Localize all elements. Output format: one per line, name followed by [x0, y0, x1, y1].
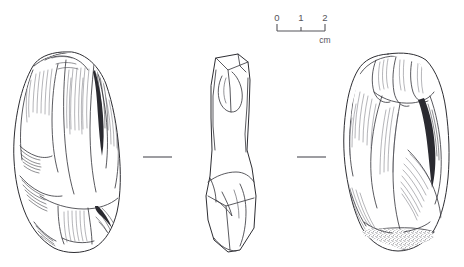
scale-tick-label-1: 1	[298, 12, 303, 23]
scale-unit-label: cm	[319, 35, 330, 45]
plate-canvas: 0 1 2 cm	[0, 0, 464, 267]
artifact-view-left	[14, 52, 121, 253]
scale-tick-label-0: 0	[274, 12, 279, 23]
scale-tick-label-2: 2	[322, 12, 327, 23]
left-outline	[14, 52, 121, 253]
illustration-plate: 0 1 2 cm	[0, 0, 464, 267]
